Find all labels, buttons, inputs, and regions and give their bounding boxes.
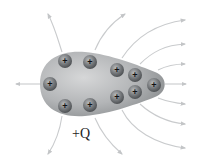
svg-text:+: +	[87, 100, 92, 110]
charge: +	[110, 90, 124, 104]
charge: +	[147, 78, 161, 92]
charge: +	[128, 85, 142, 99]
charge: +	[128, 68, 142, 82]
charge: +	[83, 55, 97, 69]
charge: +	[83, 98, 97, 112]
charge: +	[58, 99, 72, 113]
svg-text:+: +	[114, 92, 119, 102]
charge: +	[110, 63, 124, 77]
svg-text:+: +	[62, 101, 67, 111]
field-diagram: + + + + + + + + + +	[0, 0, 197, 163]
svg-text:+: +	[114, 65, 119, 75]
svg-text:+: +	[87, 57, 92, 67]
svg-text:+: +	[132, 87, 137, 97]
charge-label: +Q	[72, 126, 90, 142]
svg-text:+: +	[47, 79, 52, 89]
svg-text:+: +	[132, 70, 137, 80]
svg-text:+: +	[151, 80, 156, 90]
svg-text:+: +	[62, 56, 67, 66]
charge: +	[43, 77, 57, 91]
charge: +	[58, 54, 72, 68]
